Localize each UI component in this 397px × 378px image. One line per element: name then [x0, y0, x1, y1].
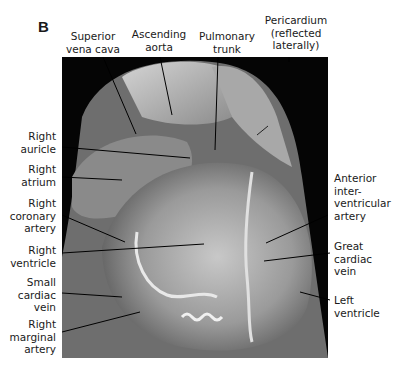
label-right-atrium: Right atrium: [0, 163, 56, 188]
label-left-ventricle: Left ventricle: [334, 294, 397, 319]
label-right-marginal-artery: Right marginal artery: [0, 318, 56, 356]
heart-illustration: [62, 57, 328, 358]
label-great-cardiac-vein: Great cardiac vein: [334, 240, 397, 278]
label-anterior-interventricular-artery: Anterior inter- ventricular artery: [334, 172, 397, 222]
panel-letter: B: [38, 18, 49, 35]
label-superior-vena-cava: Superior vena cava: [56, 30, 130, 55]
heart-photograph: [62, 57, 328, 358]
label-right-auricle: Right auricle: [0, 130, 56, 155]
label-right-ventricle: Right ventricle: [0, 244, 56, 269]
label-small-cardiac-vein: Small cardiac vein: [0, 276, 56, 314]
label-right-coronary-artery: Right coronary artery: [0, 197, 56, 235]
label-ascending-aorta: Ascending aorta: [122, 28, 196, 53]
label-pericardium: Pericardium (reflected laterally): [253, 14, 339, 52]
